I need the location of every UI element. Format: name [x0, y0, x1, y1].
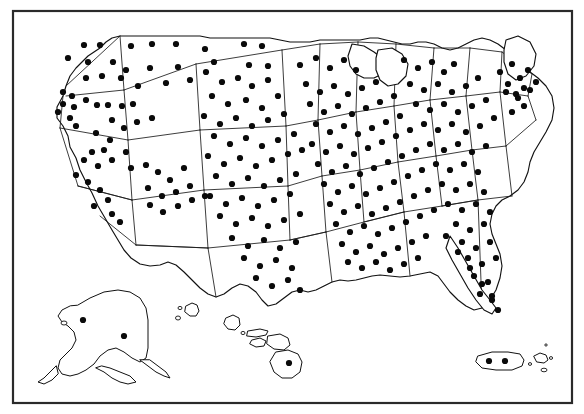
map-dot	[415, 65, 421, 71]
map-dot	[239, 195, 245, 201]
map-dot	[475, 169, 481, 175]
map-dot	[441, 101, 447, 107]
map-dot	[91, 203, 97, 209]
map-dot	[349, 183, 355, 189]
map-dot	[495, 307, 501, 313]
map-dot	[245, 243, 251, 249]
map-dot	[313, 55, 319, 61]
map-dot	[259, 105, 265, 111]
map-dot	[527, 87, 533, 93]
map-dot	[217, 121, 223, 127]
map-dot	[189, 197, 195, 203]
map-dot	[473, 245, 479, 251]
map-dot	[455, 109, 461, 115]
map-dot	[109, 117, 115, 123]
map-dot	[481, 189, 487, 195]
map-dot	[427, 141, 433, 147]
map-dot	[353, 67, 359, 73]
map-dot	[461, 161, 467, 167]
map-dot	[367, 243, 373, 249]
map-dot	[393, 133, 399, 139]
map-dot	[71, 104, 77, 110]
map-dot	[299, 147, 305, 153]
map-dot	[439, 181, 445, 187]
map-dot	[465, 255, 471, 261]
map-dot	[253, 275, 259, 281]
hawaii-inset	[178, 303, 302, 378]
map-dot	[487, 209, 493, 215]
map-dot	[489, 293, 495, 299]
map-dot	[123, 67, 129, 73]
map-dot	[83, 97, 89, 103]
map-dot	[421, 87, 427, 93]
map-dot	[271, 197, 277, 203]
map-dot	[211, 59, 217, 65]
map-dot	[229, 181, 235, 187]
map-dot	[69, 93, 75, 99]
map-dot	[277, 245, 283, 251]
map-dot	[409, 239, 415, 245]
map-dot	[407, 127, 413, 133]
map-dot	[369, 211, 375, 217]
map-dot	[317, 89, 323, 95]
map-dot	[281, 111, 287, 117]
map-dot	[60, 101, 66, 107]
puerto-rico-inset	[476, 344, 553, 372]
map-dot	[265, 223, 271, 229]
map-dot	[269, 157, 275, 163]
map-dot	[85, 179, 91, 185]
map-dot	[467, 265, 473, 271]
map-dot	[349, 111, 355, 117]
map-dot	[81, 42, 87, 48]
map-dot	[397, 113, 403, 119]
map-dot	[73, 123, 79, 129]
map-dot	[229, 235, 235, 241]
map-dot	[209, 93, 215, 99]
map-dot	[135, 83, 141, 89]
map-dot	[237, 155, 243, 161]
map-dot	[471, 273, 477, 279]
map-dot	[173, 189, 179, 195]
map-dot	[401, 261, 407, 267]
map-dot	[411, 193, 417, 199]
map-dot	[293, 239, 299, 245]
map-dot	[163, 80, 169, 86]
map-dot	[327, 65, 333, 71]
map-dot	[203, 69, 209, 75]
map-dot	[463, 83, 469, 89]
map-dot	[149, 41, 155, 47]
map-dot	[81, 157, 87, 163]
map-dot	[329, 169, 335, 175]
map-dot	[521, 85, 527, 91]
map-dot	[119, 103, 125, 109]
map-dot	[321, 109, 327, 115]
map-dot	[109, 157, 115, 163]
map-dot	[481, 221, 487, 227]
map-dot	[433, 161, 439, 167]
map-dot	[483, 97, 489, 103]
map-dot	[207, 193, 213, 199]
map-dot	[469, 103, 475, 109]
map-dot	[202, 46, 208, 52]
map-dot	[110, 59, 116, 65]
map-dot	[455, 249, 461, 255]
map-dot	[149, 115, 155, 121]
map-dot	[147, 65, 153, 71]
map-dot	[241, 41, 247, 47]
map-dot	[467, 181, 473, 187]
map-dot	[463, 129, 469, 135]
map-dot	[449, 89, 455, 95]
map-dot	[363, 191, 369, 197]
map-dot	[345, 91, 351, 97]
map-dot	[453, 187, 459, 193]
map-dot	[341, 209, 347, 215]
map-dot	[487, 239, 493, 245]
map-dot	[313, 121, 319, 127]
map-dot	[331, 83, 337, 89]
map-dot	[265, 77, 271, 83]
map-dot	[421, 121, 427, 127]
map-dot	[447, 167, 453, 173]
map-dot	[289, 265, 295, 271]
map-dot	[485, 279, 491, 285]
map-dot	[273, 257, 279, 263]
